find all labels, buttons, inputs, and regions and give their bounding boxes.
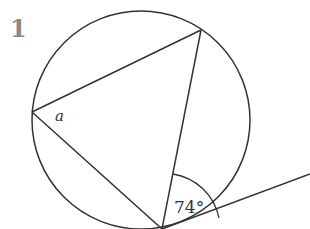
diagram-root: 1 a 74° (0, 0, 310, 229)
chord-ac (32, 112, 162, 229)
angle-a-label: a (55, 107, 64, 125)
chord-ab (32, 30, 201, 112)
circle (32, 11, 250, 229)
angle-74-label: 74° (174, 197, 204, 217)
circle-diagram: a 74° (0, 0, 310, 229)
